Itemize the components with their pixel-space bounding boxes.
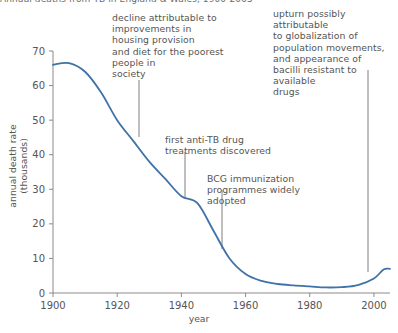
y-tick-label: 70 [32, 46, 45, 57]
y-tick-label: 0 [39, 288, 45, 299]
y-tick-label: 30 [32, 184, 45, 195]
x-tick-label: 1920 [104, 300, 129, 311]
axes: 010203040506070 190019201940196019802000 [32, 46, 390, 312]
x-tick-label: 1960 [233, 300, 258, 311]
x-tick-label: 1900 [40, 300, 65, 311]
x-tick-label: 2000 [361, 300, 386, 311]
y-tick-label: 10 [32, 253, 45, 264]
y-axis-ticks: 010203040506070 [32, 46, 53, 299]
tb-death-rate-chart: Annual deaths from TB in England & Wales… [0, 0, 398, 333]
y-tick-label: 40 [32, 149, 45, 160]
leader-lines [139, 70, 368, 272]
x-tick-label: 1940 [169, 300, 194, 311]
x-tick-label: 1980 [297, 300, 322, 311]
chart-svg: 010203040506070 190019201940196019802000 [0, 0, 398, 333]
y-tick-label: 60 [32, 80, 45, 91]
tb-death-rate-line [53, 63, 390, 288]
y-tick-label: 20 [32, 218, 45, 229]
x-axis-ticks: 190019201940196019802000 [40, 293, 386, 311]
y-tick-label: 50 [32, 115, 45, 126]
